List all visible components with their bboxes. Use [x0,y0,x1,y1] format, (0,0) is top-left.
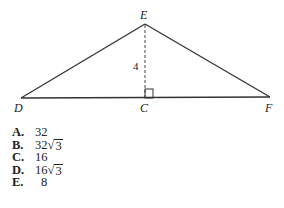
height-label: 4 [133,61,139,72]
vertex-label-f: F [265,102,272,114]
side-de [21,24,145,98]
choice-e[interactable]: E. 8 [12,176,63,189]
choice-value: 32 [35,126,48,139]
right-angle-marker [145,89,153,98]
vertex-label-e: E [140,9,147,21]
choice-a[interactable]: A. 32 [12,126,63,139]
answer-choices: A. 32 B. 32 √3 C. 16 D. 16 √3 E. 8 [12,126,63,189]
radicand: 3 [54,139,62,152]
side-ef [145,24,270,97]
choice-letter: E. [12,176,35,189]
radicand: 3 [54,164,62,177]
choice-c[interactable]: C. 16 [12,151,63,164]
choice-letter: C. [12,151,35,164]
sqrt-symbol: √ [48,164,55,177]
choice-value: 16 [35,151,48,164]
sqrt-symbol: √ [48,139,55,152]
vertex-label-d: D [14,102,23,114]
choice-letter: A. [12,126,35,139]
vertex-label-c: C [140,102,148,114]
choice-value: 8 [35,176,47,189]
